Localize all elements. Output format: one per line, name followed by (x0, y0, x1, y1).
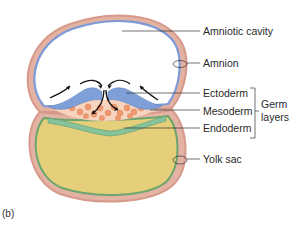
label-ectoderm: Ectoderm (203, 87, 248, 99)
label-layers: layers (261, 111, 289, 123)
panel-label: (b) (2, 208, 14, 219)
label-mesoderm: Mesoderm (203, 105, 253, 117)
label-amniotic-cavity: Amniotic cavity (203, 25, 273, 37)
label-germ: Germ (261, 98, 287, 110)
label-amnion: Amnion (203, 57, 239, 69)
label-yolk-sac: Yolk sac (203, 153, 242, 165)
label-endoderm: Endoderm (203, 122, 251, 134)
